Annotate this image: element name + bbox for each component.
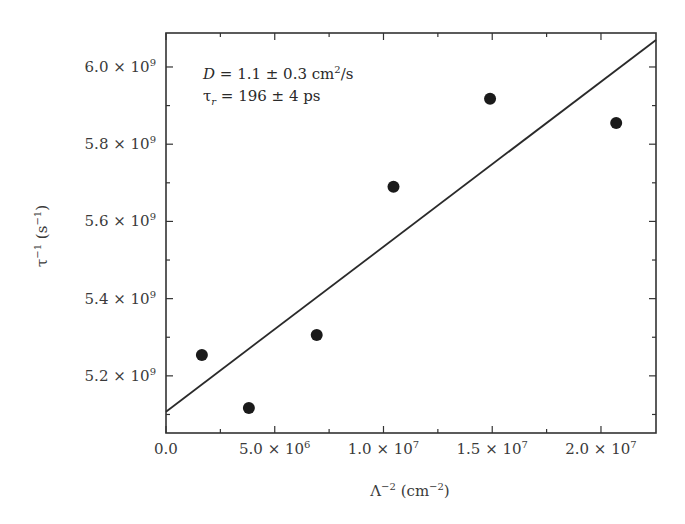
x-tick-label: 5.0 × 106 xyxy=(239,439,310,458)
data-point xyxy=(311,329,323,341)
data-point xyxy=(610,117,622,129)
y-tick-label: 5.6 × 109 xyxy=(85,211,156,230)
data-point xyxy=(484,93,496,105)
data-point xyxy=(243,402,255,414)
x-tick-label: 1.0 × 107 xyxy=(348,439,419,458)
y-axis-label: τ−1 (s−1) xyxy=(32,205,51,267)
annotation-diffusion: D = 1.1 ± 0.3 cm2/s xyxy=(202,64,353,83)
x-tick-label: 0.0 xyxy=(154,440,178,458)
x-axis-label: Λ−2 (cm−2) xyxy=(369,481,449,500)
x-tick-label: 1.5 × 107 xyxy=(457,439,528,458)
y-tick-label: 5.2 × 109 xyxy=(85,366,156,385)
annotation-lifetime: τr = 196 ± 4 ps xyxy=(203,87,321,107)
y-tick-label: 5.4 × 109 xyxy=(85,289,156,308)
scatter-chart: 0.05.0 × 1061.0 × 1071.5 × 1072.0 × 107 … xyxy=(0,0,685,524)
data-point xyxy=(196,349,208,361)
x-tick-label: 2.0 × 107 xyxy=(565,439,636,458)
y-tick-labels: 5.2 × 1095.4 × 1095.6 × 1095.8 × 1096.0 … xyxy=(85,57,156,385)
y-tick-label: 6.0 × 109 xyxy=(85,57,156,76)
x-tick-labels: 0.05.0 × 1061.0 × 1071.5 × 1072.0 × 107 xyxy=(154,439,637,458)
y-tick-label: 5.8 × 109 xyxy=(85,134,156,153)
data-point xyxy=(387,181,399,193)
data-points xyxy=(196,93,622,414)
